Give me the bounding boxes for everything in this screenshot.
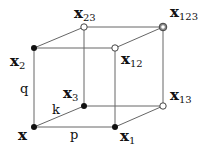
label-x3-base: x: [63, 84, 72, 102]
label-x123-sub: 123: [179, 11, 198, 22]
label-x123: x123: [170, 5, 198, 22]
label-x1: x1: [120, 129, 135, 146]
edge-x1-x13: [115, 106, 163, 127]
label-x13-base: x: [170, 86, 179, 104]
vertex-x23-dot: [81, 24, 87, 30]
label-x23-sub: 23: [83, 12, 96, 23]
vertex-x123-dot-inner: [161, 25, 165, 29]
label-x3: x3: [63, 86, 78, 103]
vertex-x12-dot: [112, 45, 118, 51]
vertex-x2-dot: [31, 45, 37, 51]
vertex-x13-dot: [160, 103, 166, 109]
label-x3-sub: 3: [72, 92, 78, 103]
label-x123-base: x: [170, 3, 179, 21]
label-x2-sub: 2: [19, 60, 25, 71]
edge-label-p: p: [70, 128, 78, 141]
edge-label-k: k: [52, 103, 60, 116]
vertex-x3-dot: [81, 103, 87, 109]
cube-diagram: [0, 0, 206, 152]
label-x12: x12: [121, 52, 143, 69]
edge-x2-x23: [34, 27, 84, 48]
label-x2-base: x: [10, 52, 19, 70]
label-x2: x2: [10, 54, 25, 71]
label-x1-base: x: [120, 127, 129, 145]
vertex-x-dot: [31, 124, 37, 130]
label-x13-sub: 13: [179, 94, 192, 105]
label-x12-sub: 12: [130, 58, 143, 69]
label-x23-base: x: [74, 4, 83, 22]
label-x-base: x: [18, 126, 27, 144]
label-x23: x23: [74, 6, 96, 23]
label-x13: x13: [170, 88, 192, 105]
edge-x12-x123: [115, 27, 163, 48]
label-x1-sub: 1: [129, 135, 135, 146]
label-x12-base: x: [121, 50, 130, 68]
edge-label-q: q: [20, 82, 28, 95]
vertex-x1-dot: [112, 124, 118, 130]
label-x: x: [18, 128, 27, 143]
